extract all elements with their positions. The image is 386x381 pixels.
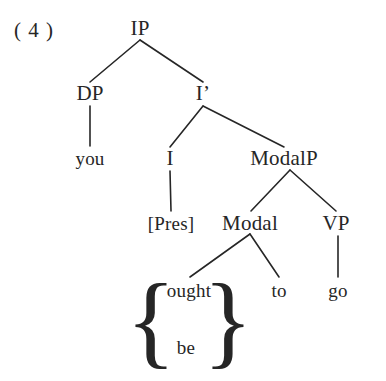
tree-node-i: I xyxy=(166,148,173,169)
syntax-tree-figure: ( 4 ) IPDPI’youIModalP[Pres]ModalVPought… xyxy=(0,0,386,381)
tree-leaf-pres: [Pres] xyxy=(148,214,195,233)
tree-leaf-you: you xyxy=(75,149,104,168)
tree-leaf-to: to xyxy=(271,281,286,300)
branch-Ibar-to-I xyxy=(170,106,203,147)
branch-Modal-to-to xyxy=(250,234,279,277)
branch-ModalP-to-Modal xyxy=(251,170,290,211)
left-curly-brace: { xyxy=(126,268,176,372)
branch-Ibar-to-ModalP xyxy=(203,106,284,147)
tree-node-ibar: I’ xyxy=(196,83,210,104)
tree-branch-lines xyxy=(0,0,386,381)
tree-node-dp: DP xyxy=(76,83,103,104)
tree-leaf-be: be xyxy=(177,338,195,357)
example-number-label: ( 4 ) xyxy=(14,20,54,41)
tree-node-modal: Modal xyxy=(222,213,278,234)
branch-ModalP-to-VP xyxy=(290,170,336,211)
tree-node-modalp: ModalP xyxy=(250,148,318,169)
tree-node-ip: IP xyxy=(130,18,149,39)
branch-IP-to-Ibar xyxy=(140,40,203,82)
right-curly-brace: } xyxy=(203,268,253,372)
branch-IP-to-DP xyxy=(90,40,140,82)
tree-leaf-go: go xyxy=(328,281,347,300)
tree-node-vp: VP xyxy=(322,213,349,234)
branch-I-to-Pres xyxy=(170,171,171,211)
